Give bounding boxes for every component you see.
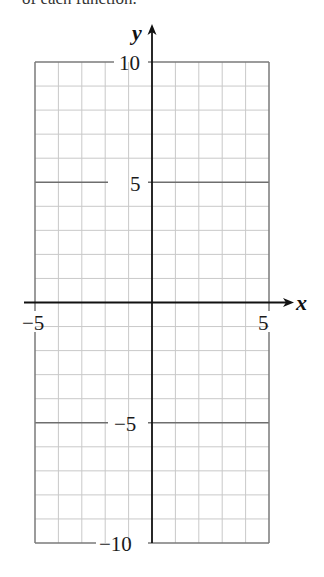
- x-axis-label: x: [295, 290, 307, 315]
- x-tick-label: 5: [258, 311, 269, 335]
- y-tick-label: 5: [130, 172, 141, 196]
- tick-labels: −55105−5−10: [22, 51, 269, 556]
- x-tick-label: −5: [22, 311, 44, 335]
- y-axis-label: y: [129, 20, 142, 45]
- coordinate-grid: xy −55105−5−10: [0, 0, 324, 577]
- y-tick-label: −5: [114, 412, 136, 436]
- axes: xy: [24, 20, 307, 543]
- y-tick-label: 10: [119, 51, 140, 75]
- y-tick-label: −10: [99, 532, 132, 556]
